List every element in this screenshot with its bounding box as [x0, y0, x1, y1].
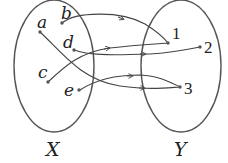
set-y-label: Y: [174, 138, 189, 160]
label-c: c: [38, 62, 48, 82]
label-a: a: [37, 12, 47, 32]
label-d: d: [63, 32, 74, 52]
arrow-a-to-3: [40, 32, 180, 88]
label-2: 2: [204, 38, 213, 57]
set-x-label: X: [44, 138, 61, 160]
label-3: 3: [184, 79, 193, 98]
mapping-diagram: a b d c e 1 2 3 X Y: [0, 0, 228, 163]
label-1: 1: [172, 24, 181, 43]
arrow-b-to-1: [62, 14, 168, 43]
label-e: e: [64, 80, 74, 100]
label-b: b: [61, 3, 72, 23]
set-y-ellipse: [141, 0, 221, 132]
set-x-ellipse: [14, 0, 94, 132]
